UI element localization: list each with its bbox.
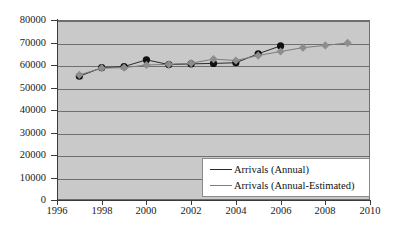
series-layer	[0, 0, 399, 236]
diamond-marker-icon	[210, 179, 232, 193]
data-point-diamond	[344, 39, 352, 47]
legend-label-annual-estimated: Arrivals (Annual-Estimated)	[232, 181, 354, 192]
series-annual	[76, 42, 284, 80]
circle-marker-icon	[210, 163, 232, 177]
data-point-diamond	[142, 61, 150, 69]
series-annual-estimated	[75, 39, 351, 79]
legend-item-annual: Arrivals (Annual)	[203, 162, 369, 178]
data-point-diamond	[299, 44, 307, 52]
arrivals-line-chart: 0100002000030000400005000060000700008000…	[0, 0, 399, 236]
data-point-diamond	[276, 47, 284, 55]
data-point-diamond	[165, 60, 173, 68]
legend-item-annual-estimated: Arrivals (Annual-Estimated)	[203, 178, 369, 194]
data-point-diamond	[187, 59, 195, 67]
data-point-diamond	[98, 64, 106, 72]
series-line	[79, 46, 280, 76]
legend: Arrivals (Annual) Arrivals (Annual-Estim…	[202, 158, 370, 197]
legend-label-annual: Arrivals (Annual)	[232, 165, 309, 176]
data-point-diamond	[321, 41, 329, 49]
